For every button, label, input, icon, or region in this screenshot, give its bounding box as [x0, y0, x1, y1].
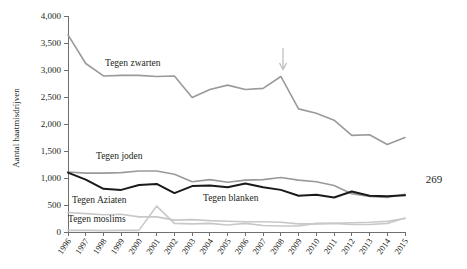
x-tick-label: 2007	[250, 236, 268, 256]
series-label-tegen-blanken: Tegen blanken	[203, 193, 259, 203]
x-tick-label: 2002	[162, 236, 180, 256]
x-tick-label: 2009	[286, 236, 304, 256]
x-tick-label: 1999	[108, 236, 126, 256]
x-tick-label: 2006	[233, 236, 251, 256]
x-tick-label: 2004	[197, 236, 215, 256]
arrow-2008-icon	[280, 48, 287, 70]
series-label-tegen-joden: Tegen joden	[96, 151, 143, 161]
series-label-tegen-aziaten: Tegen Aziaten	[72, 195, 127, 205]
x-tick-label: 2011	[321, 236, 339, 255]
y-tick-labels: 05001,0001,5002,0002,5003,0003,5004,000	[41, 11, 62, 237]
page-number: 269	[426, 173, 443, 185]
y-tick-label: 3,000	[41, 65, 62, 75]
y-axis-title: Aantal haatmisdrijven	[11, 88, 21, 168]
x-tick-label: 2012	[339, 236, 357, 256]
x-tick-label: 2010	[304, 236, 322, 256]
series-label-tegen-zwarten: Tegen zwarten	[105, 58, 161, 68]
y-tick-label: 500	[48, 200, 62, 210]
x-tick-labels: 1996199719981999200020012002200320042005…	[55, 236, 410, 256]
x-tick-label: 2000	[126, 236, 144, 256]
x-tick-label: 2003	[179, 236, 197, 256]
figure-container: 05001,0001,5002,0002,5003,0003,5004,000 …	[0, 0, 467, 269]
x-tick-label: 2008	[268, 236, 286, 256]
x-tick-label: 1997	[73, 236, 91, 256]
series-label-tegen-moslims: Tegen moslims	[68, 214, 126, 224]
x-tick-label: 1996	[55, 236, 73, 256]
y-tick-label: 2,500	[41, 92, 62, 102]
y-tick-label: 1,000	[41, 173, 62, 183]
y-tick-label: 2,000	[41, 119, 62, 129]
x-tick-label: 1998	[91, 236, 109, 256]
x-tick-label: 2015	[392, 236, 410, 256]
x-tick-label: 2001	[144, 236, 162, 256]
x-tick-label: 2014	[374, 236, 392, 256]
series-inline-labels: Tegen zwartenTegen jodenTegen blankenTeg…	[68, 58, 259, 224]
series-line-tegen-zwarten	[68, 35, 405, 145]
annotations-group	[280, 48, 287, 70]
y-tick-label: 0	[57, 227, 62, 237]
y-tick-label: 4,000	[41, 11, 62, 21]
x-tick-label: 2013	[357, 236, 375, 256]
y-tick-label: 3,500	[41, 38, 62, 48]
x-tick-label: 2005	[215, 236, 233, 256]
hate-crimes-line-chart: 05001,0001,5002,0002,5003,0003,5004,000 …	[0, 0, 467, 269]
y-tick-label: 1,500	[41, 146, 62, 156]
